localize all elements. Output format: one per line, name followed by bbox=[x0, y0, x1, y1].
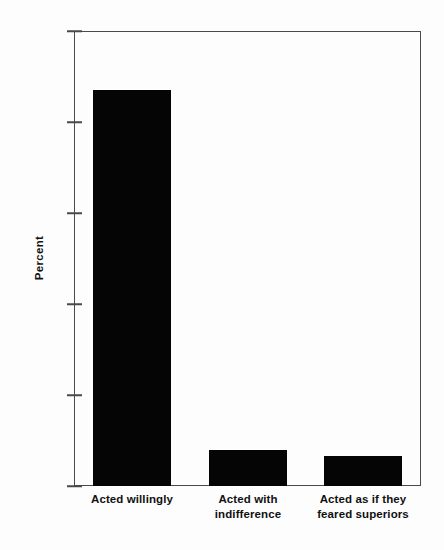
bar-acted-as-if-feared-superiors bbox=[324, 456, 402, 486]
bar-series bbox=[0, 0, 444, 550]
x-label-line-2: feared superiors bbox=[297, 507, 429, 522]
bar-acted-willingly bbox=[93, 90, 171, 486]
bar-chart: 0 20 40 60 80 100 Percent bbox=[0, 0, 444, 550]
x-label-acted-with-indifference: Acted with indifference bbox=[183, 492, 313, 522]
x-label-line-1: Acted as if they bbox=[320, 493, 407, 505]
x-label-line-1: Acted with bbox=[218, 493, 277, 505]
x-label-acted-willingly: Acted willingly bbox=[62, 492, 202, 507]
x-label-line-1: Acted willingly bbox=[91, 493, 173, 505]
bar-acted-with-indifference bbox=[209, 450, 287, 486]
x-label-line-2: indifference bbox=[183, 507, 313, 522]
x-label-acted-as-if-feared-superiors: Acted as if they feared superiors bbox=[297, 492, 429, 522]
